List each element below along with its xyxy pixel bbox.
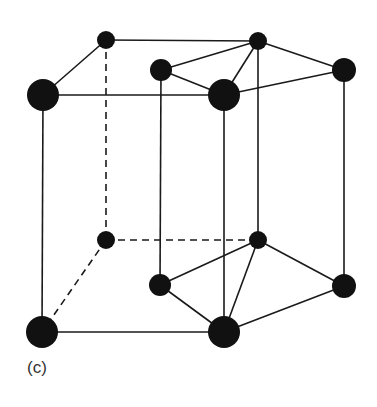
edge-top-front-left-to-bottom-front-left — [42, 95, 43, 332]
atom-bottom-right — [332, 274, 356, 298]
atom-bottom-front-center — [208, 316, 240, 348]
bond-edges — [42, 40, 344, 332]
edge-top-back-right-to-top-right — [258, 41, 344, 70]
atom-bottom-front-left — [26, 316, 58, 348]
figure-label: (c) — [27, 358, 47, 378]
atom-top-right — [332, 58, 356, 82]
atom-top-front-center — [208, 79, 240, 111]
edge-bottom-front-center-to-bottom-right — [224, 286, 344, 332]
atom-bottom-mid-left — [149, 274, 171, 296]
edge-top-mid-left-to-bottom-mid-left — [160, 70, 161, 285]
edge-top-front-center-to-top-right — [224, 70, 344, 95]
atom-top-back-right — [249, 32, 267, 50]
atom-top-back-left — [97, 31, 115, 49]
edge-bottom-back-left-to-bottom-front-left — [42, 240, 106, 332]
edge-top-back-left-to-top-back-right — [106, 40, 258, 41]
edge-bottom-back-right-to-bottom-right — [258, 240, 344, 286]
atom-bottom-back-left — [97, 231, 115, 249]
edge-top-mid-left-to-top-back-right — [161, 41, 258, 70]
hcp-unit-cell-diagram — [0, 0, 377, 407]
atom-top-front-left — [27, 79, 59, 111]
atom-top-mid-left — [150, 59, 172, 81]
atom-bottom-back-right — [249, 231, 267, 249]
